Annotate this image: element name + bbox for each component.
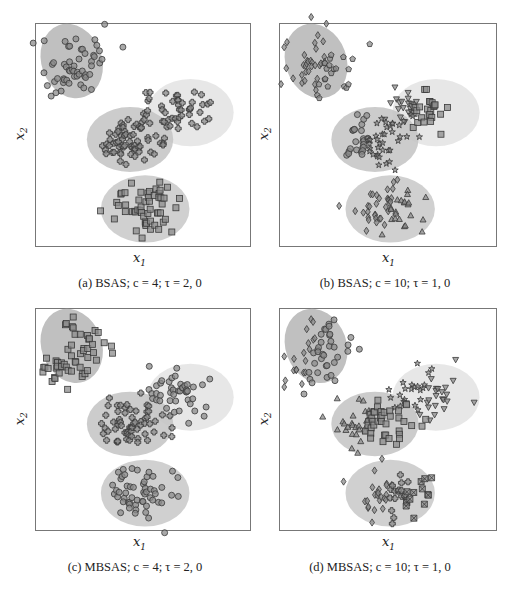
caption-b: (b) BSAS; c = 10; τ = 1, 0 (310, 276, 460, 291)
circle-marker (58, 88, 64, 94)
circle-marker (89, 63, 95, 69)
circle-marker (175, 493, 181, 499)
circle-marker (159, 484, 165, 490)
square-marker (45, 366, 51, 372)
square-marker (438, 131, 444, 137)
circle-marker (66, 80, 72, 86)
square-marker (63, 320, 69, 326)
scatter-plot-d (279, 308, 497, 531)
x-axis-label-b: x1 (382, 250, 395, 268)
circle-marker (122, 472, 128, 478)
square-marker (89, 341, 95, 347)
square-marker (387, 413, 393, 419)
square-x-marker (411, 515, 417, 521)
square-marker (93, 357, 99, 363)
circle-marker (130, 484, 136, 490)
circle-marker (312, 360, 318, 366)
square-marker (123, 202, 129, 208)
square-marker (85, 355, 91, 361)
square-marker (401, 419, 407, 425)
square-marker (421, 119, 427, 125)
circle-marker (169, 492, 175, 498)
circle-marker (30, 40, 36, 46)
panel-a (35, 23, 251, 247)
circle-marker (87, 71, 93, 77)
circle-marker (162, 530, 168, 536)
square-marker (98, 208, 104, 214)
circle-marker (354, 112, 360, 118)
circle-marker (102, 21, 108, 27)
circle-marker (91, 54, 97, 60)
square-marker (164, 184, 170, 190)
square-marker (56, 370, 62, 376)
circle-marker (143, 509, 149, 515)
circle-marker (41, 70, 47, 76)
square-marker (95, 329, 101, 335)
circle-marker (150, 497, 156, 503)
circle-marker (54, 76, 60, 82)
circle-marker (359, 151, 365, 157)
circle-marker (332, 378, 338, 384)
scatter-plot-c (35, 308, 251, 531)
circle-marker (73, 36, 79, 42)
circle-marker (190, 384, 196, 390)
square-marker (423, 416, 429, 422)
caption-d: (d) MBSAS; c = 10; τ = 1, 0 (300, 560, 460, 575)
y-axis-label-d: x2 (256, 412, 274, 425)
circle-marker (132, 510, 138, 516)
square-x-marker (425, 492, 431, 498)
square-marker (122, 190, 128, 196)
circle-marker (173, 398, 179, 404)
square-marker (69, 368, 75, 374)
square-x-marker (411, 489, 417, 495)
square-marker (383, 421, 389, 427)
circle-marker (176, 408, 182, 414)
circle-marker (51, 60, 57, 66)
square-marker (159, 201, 165, 207)
square-marker (70, 325, 76, 331)
square-marker (162, 216, 168, 222)
y-axis-label-b: x2 (256, 127, 274, 140)
circle-marker (150, 473, 156, 479)
square-x-marker (419, 486, 425, 492)
circle-marker (116, 489, 122, 495)
circle-marker (82, 51, 88, 57)
circle-marker (351, 126, 357, 132)
square-marker (108, 343, 114, 349)
circle-marker (157, 398, 163, 404)
square-marker (432, 102, 438, 108)
circle-marker (331, 317, 337, 323)
circle-marker (321, 352, 327, 358)
circle-marker (309, 380, 315, 386)
square-marker (158, 210, 164, 216)
square-marker (65, 386, 71, 392)
circle-marker (169, 468, 175, 474)
square-marker (157, 187, 163, 193)
circle-marker (118, 510, 124, 516)
circle-marker (186, 420, 192, 426)
caption-c: (c) MBSAS; c = 4; τ = 2, 0 (60, 560, 210, 575)
circle-marker (123, 490, 129, 496)
square-marker (419, 423, 425, 429)
circle-marker (146, 363, 152, 369)
square-marker (147, 206, 153, 212)
square-x-marker (403, 503, 409, 509)
circle-marker (345, 342, 351, 348)
circle-marker (159, 500, 165, 506)
circle-marker (174, 365, 180, 371)
caption-a: (a) BSAS; c = 4; τ = 2, 0 (70, 276, 210, 291)
square-marker (77, 364, 83, 370)
circle-marker (67, 43, 73, 49)
circle-marker (120, 44, 126, 50)
circle-marker (199, 382, 205, 388)
square-marker (138, 189, 144, 195)
square-marker (380, 439, 386, 445)
square-x-marker (421, 501, 427, 507)
circle-marker (44, 83, 50, 89)
circle-marker (327, 331, 333, 337)
circle-marker (152, 491, 158, 497)
circle-marker (331, 360, 337, 366)
square-marker (91, 350, 97, 356)
square-marker (128, 180, 134, 186)
circle-marker (134, 467, 140, 473)
